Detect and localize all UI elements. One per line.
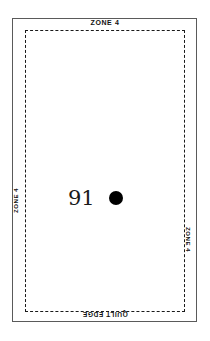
center-annotation-group: 91 <box>66 182 146 214</box>
piece-number-label: 91 <box>68 188 95 209</box>
filled-circle-marker-icon <box>109 191 123 205</box>
edge-label-right: ZONE 4 <box>185 227 191 252</box>
seam-allowance-boundary <box>25 30 185 312</box>
edge-label-bottom-quilt-edge: QUILT EDGE <box>0 310 210 317</box>
edge-label-left: ZONE 4 <box>13 188 19 213</box>
edge-label-top: ZONE 4 <box>0 19 210 26</box>
quilt-zone-diagram: ZONE 4 QUILT EDGE ZONE 4 ZONE 4 91 <box>0 0 210 341</box>
